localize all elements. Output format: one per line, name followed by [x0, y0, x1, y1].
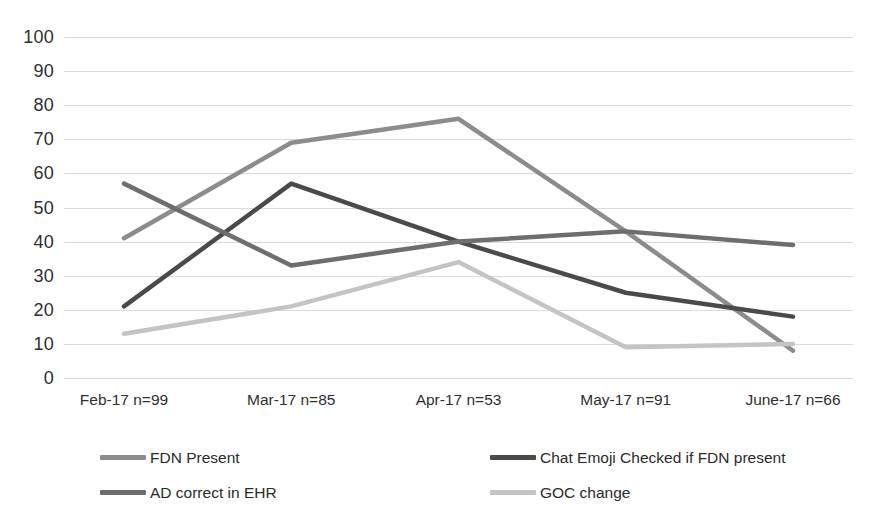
- line-chart: 1009080706050403020100 Feb-17 n=99Mar-17…: [0, 0, 869, 514]
- y-axis-tick-label: 90: [34, 62, 54, 80]
- x-axis: Feb-17 n=99Mar-17 n=85Apr-17 n=53May-17 …: [64, 388, 853, 422]
- plot-area: 1009080706050403020100: [0, 0, 869, 430]
- legend-item[interactable]: GOC change: [490, 478, 869, 508]
- y-axis-tick-label: 0: [44, 369, 54, 387]
- chart-legend: FDN PresentChat Emoji Checked if FDN pre…: [100, 440, 860, 510]
- x-axis-tick-label: Mar-17 n=85: [247, 392, 335, 408]
- y-axis-tick-label: 80: [34, 96, 54, 114]
- series-line: [124, 262, 793, 347]
- y-axis-tick-label: 40: [34, 233, 54, 251]
- y-axis: 1009080706050403020100: [0, 0, 64, 430]
- legend-item[interactable]: AD correct in EHR: [100, 478, 490, 508]
- legend-color-swatch: [490, 490, 536, 495]
- legend-item[interactable]: FDN Present: [100, 443, 490, 473]
- legend-item-label: GOC change: [540, 485, 630, 501]
- legend-item[interactable]: Chat Emoji Checked if FDN present: [490, 443, 869, 473]
- y-axis-tick-label: 70: [34, 130, 54, 148]
- legend-color-swatch: [100, 490, 146, 495]
- y-axis-tick-label: 30: [34, 267, 54, 285]
- gridlines: [64, 0, 853, 430]
- legend-item-label: FDN Present: [150, 450, 240, 466]
- x-axis-tick-label: June-17 n=66: [745, 392, 840, 408]
- series-line: [124, 184, 793, 317]
- y-axis-tick-label: 100: [23, 28, 54, 46]
- x-axis-tick-label: May-17 n=91: [580, 392, 671, 408]
- y-axis-tick-label: 20: [34, 301, 54, 319]
- series-line: [124, 184, 793, 266]
- legend-item-label: AD correct in EHR: [150, 485, 277, 501]
- legend-color-swatch: [490, 455, 536, 460]
- series-layer: [64, 0, 853, 430]
- y-axis-tick-label: 60: [34, 164, 54, 182]
- legend-item-label: Chat Emoji Checked if FDN present: [540, 450, 786, 466]
- y-axis-tick-label: 10: [34, 335, 54, 353]
- x-axis-tick-label: Apr-17 n=53: [416, 392, 502, 408]
- legend-color-swatch: [100, 455, 146, 460]
- x-axis-tick-label: Feb-17 n=99: [80, 392, 168, 408]
- y-axis-tick-label: 50: [34, 199, 54, 217]
